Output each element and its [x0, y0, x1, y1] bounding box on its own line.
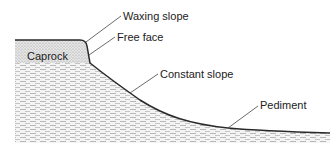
constant-slope-leader — [130, 74, 158, 93]
pediment-leader — [228, 106, 258, 128]
caprock-label: Caprock — [27, 50, 68, 62]
free-face-label: Free face — [117, 31, 163, 43]
constant-slope-label: Constant slope — [160, 68, 233, 80]
pediment-label: Pediment — [260, 99, 306, 111]
waxing-slope-label: Waxing slope — [123, 10, 189, 22]
waxing-slope-leader — [86, 16, 121, 42]
free-face-leader — [89, 37, 115, 55]
hillslope-diagram: Waxing slope Free face Caprock Constant … — [0, 0, 334, 149]
